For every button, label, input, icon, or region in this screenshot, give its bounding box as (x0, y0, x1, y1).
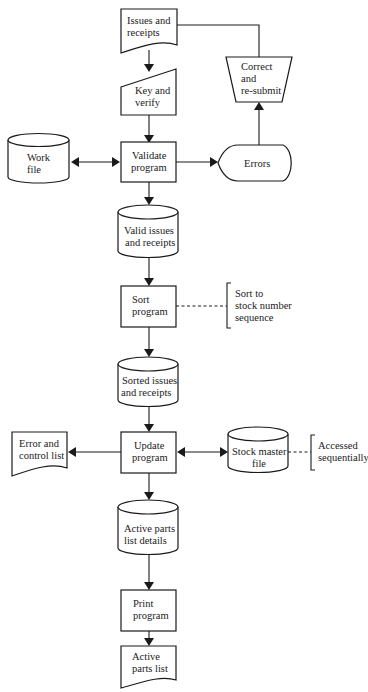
node-valid-issues: Valid issues and receipts (118, 205, 178, 258)
node-label: Correct (241, 61, 273, 72)
node-label: verify (135, 97, 161, 108)
node-label: Issues and (127, 15, 171, 26)
node-print-program: Print program (121, 590, 176, 631)
arrowhead-icon (220, 447, 228, 457)
arrowhead-icon (112, 157, 120, 167)
disk-top (228, 427, 288, 441)
note-bracket (227, 283, 231, 328)
arrowhead-icon (177, 447, 185, 457)
disk-top (118, 500, 178, 514)
arrowhead-icon (210, 157, 218, 167)
connectors (68, 25, 315, 646)
node-label: program (132, 452, 168, 463)
node-update-program: Update program (121, 432, 176, 473)
node-label: Errors (244, 158, 270, 169)
annotation-text: sequence (235, 312, 274, 323)
arrowhead-icon (144, 638, 154, 646)
flowchart-canvas: Issues and receipts Key and verify Corre… (0, 0, 368, 692)
edge-correct-to-issues (177, 25, 259, 57)
annotation-text: Sort to (235, 288, 263, 299)
annotation-sort: Sort to stock number sequence (235, 288, 292, 323)
node-label: file (252, 458, 266, 469)
node-sorted-issues: Sorted issues and receipts (118, 357, 178, 407)
node-errors: Errors (218, 145, 291, 181)
node-work-file: Work file (8, 134, 69, 184)
node-label: re-submit (241, 85, 281, 96)
node-label: Valid issues (124, 225, 174, 236)
node-label: list details (124, 535, 167, 546)
node-sort-program: Sort program (121, 286, 176, 327)
node-label: Active parts (124, 523, 175, 534)
annotation-text: stock number (235, 300, 292, 311)
node-key-verify: Key and verify (121, 69, 176, 115)
arrowhead-icon (144, 64, 154, 72)
node-label: Stock master (232, 446, 287, 457)
node-label: parts list (132, 663, 168, 674)
arrowhead-icon (254, 102, 264, 110)
arrowhead-icon (144, 424, 154, 432)
arrowhead-icon (144, 349, 154, 357)
disk-top (8, 134, 69, 147)
annotation-access: Accessed sequentially (318, 440, 368, 463)
node-label: Key and (135, 85, 171, 96)
node-label: receipts (127, 27, 160, 38)
node-label: Active (132, 651, 160, 662)
node-label: Update (134, 440, 165, 451)
node-correct-resubmit: Correct and re-submit (226, 57, 292, 102)
node-active-details: Active parts list details (118, 500, 178, 555)
arrowhead-icon (144, 582, 154, 590)
node-label: Validate (132, 150, 167, 161)
node-label: Sorted issues (122, 375, 177, 386)
node-issues-receipts: Issues and receipts (121, 9, 177, 53)
node-stock-master: Stock master file (228, 427, 288, 473)
node-label: control list (19, 450, 64, 461)
arrowhead-icon (144, 197, 154, 205)
arrowhead-icon (68, 447, 76, 457)
annotation-text: Accessed (318, 440, 358, 451)
arrowhead-icon (71, 157, 79, 167)
node-label: and receipts (125, 237, 175, 248)
arrowhead-icon (144, 492, 154, 500)
node-label: and receipts (121, 387, 171, 398)
annotation-text: sequentially (318, 452, 368, 463)
node-label: file (27, 164, 41, 175)
node-label: program (133, 610, 169, 621)
node-validate-program: Validate program (121, 142, 176, 182)
node-label: Error and (19, 438, 60, 449)
node-error-control-list: Error and control list (12, 432, 67, 476)
node-label: program (131, 162, 167, 173)
disk-top (118, 357, 178, 371)
node-active-parts-list: Active parts list (121, 646, 176, 688)
arrowhead-icon (144, 278, 154, 286)
note-bracket (311, 435, 315, 470)
node-label: program (132, 306, 168, 317)
disk-top (118, 205, 178, 219)
node-label: and (241, 73, 257, 84)
node-label: Work (27, 152, 51, 163)
node-label: Sort (132, 294, 150, 305)
node-label: Print (133, 598, 154, 609)
